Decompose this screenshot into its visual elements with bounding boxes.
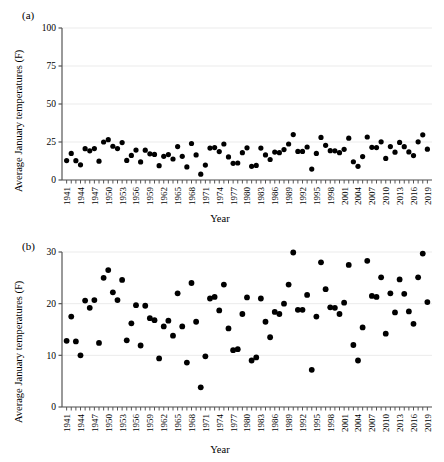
x-tick-label: 2016 xyxy=(409,414,419,433)
data-point xyxy=(254,163,259,168)
data-point xyxy=(313,314,319,320)
data-point xyxy=(101,275,107,281)
data-point xyxy=(397,276,403,282)
data-point xyxy=(378,274,384,280)
x-tick-label: 1989 xyxy=(284,187,294,206)
y-tick-label: 0 xyxy=(51,175,56,185)
data-point xyxy=(239,311,245,317)
data-point xyxy=(194,152,199,157)
x-tick-label: 2001 xyxy=(340,187,350,205)
data-point xyxy=(226,326,232,332)
data-point xyxy=(379,139,384,144)
data-point xyxy=(87,148,92,153)
x-tick-label: 1950 xyxy=(104,187,114,206)
data-point xyxy=(374,294,380,300)
data-point xyxy=(198,172,203,177)
y-tick-label: 50 xyxy=(47,99,57,109)
x-tick-label: 1968 xyxy=(187,187,197,206)
x-tick-label: 1998 xyxy=(326,187,336,206)
x-tick-label: 1980 xyxy=(242,414,252,433)
x-tick-label: 1998 xyxy=(326,414,336,433)
data-point xyxy=(115,297,121,303)
data-point xyxy=(323,286,329,292)
data-point xyxy=(402,144,407,149)
data-point xyxy=(216,307,222,313)
x-tick-label: 1944 xyxy=(76,414,86,433)
data-point xyxy=(68,314,74,320)
x-tick-label: 1962 xyxy=(159,187,169,205)
x-tick-label: 1983 xyxy=(256,187,266,206)
data-point xyxy=(364,258,370,264)
data-point xyxy=(355,164,360,169)
y-tick-label: 10 xyxy=(47,351,57,361)
data-point xyxy=(96,340,102,346)
panel-a-plot: 0255075100194119441947195019531956195919… xyxy=(0,0,444,231)
data-point xyxy=(115,146,120,151)
data-point xyxy=(184,360,190,366)
data-point xyxy=(119,277,125,283)
panel-b-plot: 0102030194119441947195019531956195919621… xyxy=(0,231,444,462)
data-point xyxy=(161,324,167,330)
data-point xyxy=(83,146,88,151)
x-tick-label: 2007 xyxy=(367,187,377,206)
data-point xyxy=(161,154,166,159)
x-tick-label: 2013 xyxy=(395,414,405,433)
data-point xyxy=(305,144,310,149)
data-point xyxy=(397,140,402,145)
data-point xyxy=(64,158,69,163)
data-point xyxy=(263,319,269,325)
x-tick-label: 1941 xyxy=(62,187,72,205)
data-point xyxy=(360,154,365,159)
data-point xyxy=(411,321,417,327)
x-tick-label: 1971 xyxy=(201,414,211,432)
data-point xyxy=(268,157,273,162)
data-point xyxy=(189,280,195,286)
data-point xyxy=(166,152,171,157)
data-point xyxy=(351,159,356,164)
x-tick-label: 2019 xyxy=(423,187,433,206)
data-point xyxy=(235,346,241,352)
y-tick-label: 25 xyxy=(47,137,57,147)
x-tick-label: 1986 xyxy=(270,414,280,433)
data-point xyxy=(291,132,296,137)
data-point xyxy=(337,311,343,317)
x-tick-label: 1983 xyxy=(256,414,266,433)
x-tick-label: 2004 xyxy=(353,187,363,206)
x-tick-label: 1953 xyxy=(118,187,128,206)
data-point xyxy=(416,139,421,144)
data-point xyxy=(170,156,175,161)
data-point xyxy=(286,141,291,146)
x-tick-label: 1992 xyxy=(298,187,308,205)
data-point xyxy=(383,331,389,337)
data-point xyxy=(175,144,180,149)
x-tick-label: 2016 xyxy=(409,187,419,206)
data-point xyxy=(152,317,158,323)
x-tick-label: 1947 xyxy=(90,187,100,206)
data-point xyxy=(383,156,388,161)
panel-b: (b) Average January temperatures (F) Yea… xyxy=(0,231,444,462)
x-tick-label: 2019 xyxy=(423,414,433,433)
data-point xyxy=(369,145,374,150)
data-point xyxy=(244,145,249,150)
data-point xyxy=(341,300,347,306)
data-point xyxy=(328,148,333,153)
x-tick-label: 2010 xyxy=(381,187,391,206)
x-tick-label: 1977 xyxy=(229,414,239,433)
data-point xyxy=(240,150,245,155)
x-tick-label: 1947 xyxy=(90,414,100,433)
y-tick-label: 20 xyxy=(47,299,57,309)
data-point xyxy=(92,146,97,151)
x-tick-label: 2001 xyxy=(340,414,350,432)
data-point xyxy=(156,356,162,362)
data-point xyxy=(157,163,162,168)
data-point xyxy=(300,149,305,154)
data-point xyxy=(424,299,430,305)
data-point xyxy=(143,148,148,153)
x-tick-label: 1974 xyxy=(215,414,225,433)
data-point xyxy=(193,319,199,325)
data-point xyxy=(110,289,116,295)
data-point xyxy=(249,164,254,169)
data-point xyxy=(78,352,84,358)
data-point xyxy=(387,290,393,296)
data-point xyxy=(355,358,361,364)
